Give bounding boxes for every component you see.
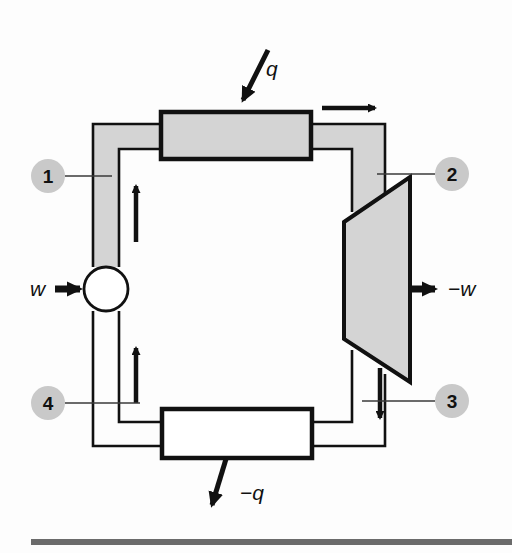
state-point-3[interactable]: 3 [435,384,469,418]
pump-work-input-label: w [30,277,47,300]
bottom-horizontal-rule [31,539,512,545]
state-point-4-label: 4 [43,393,54,414]
heat-rejected-label: −q [240,481,264,504]
state-point-2[interactable]: 2 [435,157,469,191]
figure-root: q −q w −w 1 2 3 4 [0,0,512,553]
heat-rejected-arrow [212,459,226,505]
pump[interactable] [84,267,128,311]
condenser[interactable] [162,409,312,458]
state-point-1-label: 1 [43,166,54,187]
pipe-inner-contour-topleft [119,149,167,267]
pipe-left-riser-upper [93,124,167,267]
rankine-cycle-diagram: q −q w −w 1 2 3 4 [0,0,512,553]
state-point-2-label: 2 [447,164,458,185]
boiler[interactable] [161,112,311,159]
state-point-1[interactable]: 1 [31,159,65,193]
heat-input-label: q [266,57,278,80]
heat-input-arrow [243,50,268,100]
turbine-work-output-label: −w [448,277,477,300]
state-point-4[interactable]: 4 [31,386,65,420]
pipe-lower-left-inner [119,311,167,422]
state-point-3-label: 3 [447,391,458,412]
pipe-lower-left-outer [93,311,167,446]
pipe-lower-right-outer [305,374,385,446]
